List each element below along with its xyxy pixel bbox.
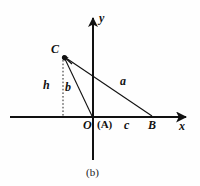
segment-label-a: a bbox=[120, 75, 126, 87]
y-axis-label: y bbox=[99, 12, 104, 24]
point-label-o: O bbox=[83, 119, 92, 131]
segment-label-c: c bbox=[124, 119, 129, 131]
point-label-b: B bbox=[148, 119, 156, 131]
segment-a-line bbox=[66, 58, 152, 116]
geometry-figure: y x C O (A) B a b c h (b) bbox=[0, 0, 200, 186]
segment-label-h: h bbox=[43, 79, 50, 91]
segment-label-b: b bbox=[65, 81, 71, 93]
x-axis-label: x bbox=[179, 120, 185, 132]
figure-canvas bbox=[0, 0, 200, 186]
vertex-c-dot bbox=[62, 55, 67, 60]
figure-caption: (b) bbox=[86, 167, 99, 178]
point-label-a: (A) bbox=[97, 119, 112, 130]
point-label-c: C bbox=[51, 43, 59, 55]
